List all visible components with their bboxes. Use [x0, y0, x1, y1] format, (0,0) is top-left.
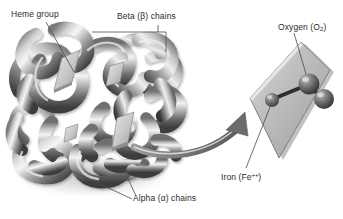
oxygen-atom-sphere-lower	[314, 89, 334, 109]
hemoglobin-protein-model	[12, 28, 181, 182]
iron-atom-highlight	[267, 95, 272, 98]
alpha-label-prefix: Alpha (	[133, 193, 161, 203]
oxygen-label-suffix: )	[324, 22, 327, 32]
heme-plate	[64, 124, 78, 142]
iron-label-prefix: Iron (Fe	[221, 172, 252, 182]
diagram-canvas	[0, 0, 343, 219]
label-heme-group: Heme group	[11, 10, 59, 19]
oxygen-lower-highlight	[317, 93, 323, 97]
hemoglobin-diagram: Heme group Beta (β) chains Alpha (α) cha…	[0, 0, 343, 219]
iron-label-suffix: )	[258, 172, 261, 182]
oxygen-label-prefix: Oxygen (O	[278, 22, 320, 32]
heme-inset-group	[250, 42, 334, 160]
iron-atom-sphere	[265, 93, 279, 107]
label-iron: Iron (Fe++)	[221, 172, 261, 181]
alpha-label-suffix: ) chains	[166, 193, 197, 203]
oxygen-upper-highlight	[302, 77, 309, 82]
beta-label-suffix: ) chains	[145, 11, 176, 21]
label-alpha-chains: Alpha (α) chains	[133, 194, 196, 203]
beta-label-prefix: Beta (	[117, 11, 140, 21]
label-oxygen: Oxygen (O2)	[278, 23, 326, 32]
label-beta-chains: Beta (β) chains	[117, 12, 176, 21]
oxygen-atom-sphere-upper	[299, 74, 320, 95]
